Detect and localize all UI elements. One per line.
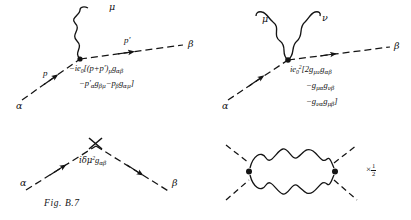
cross-x-icon xyxy=(89,138,102,149)
momentum-p-prime-label-tl: p′ xyxy=(124,36,130,45)
diagram-bottom-right xyxy=(226,145,357,200)
amplitude-formula-bl: iδμ2gαβ xyxy=(79,156,106,166)
alpha-label-tl: α xyxy=(16,101,22,111)
tr-l2-g2-sub: νβ xyxy=(328,85,335,91)
tr-l2-g1: −g xyxy=(306,80,316,90)
mu-label-tl: μ xyxy=(109,2,115,12)
photon-loop-lower-br xyxy=(250,175,334,194)
tl-l1-body: [(p+p′) xyxy=(84,63,109,73)
beta-leg-line-tr xyxy=(288,47,390,60)
tr-l1-g2-sub: αβ xyxy=(325,69,332,75)
tr-l3-g1: −g xyxy=(306,96,316,106)
beta-label-bl: β xyxy=(172,178,178,188)
photon-wave-mu-tr xyxy=(256,12,288,60)
beta-leg-arrow-tl xyxy=(118,52,132,54)
amplitude-formula-tr-line2: −gμαgνβ xyxy=(306,81,334,91)
beta-label-tl: β xyxy=(188,39,194,49)
bl-metric-sub: αβ xyxy=(99,160,106,166)
vertex-dot-tr xyxy=(285,57,291,63)
external-leg-lower-left-br xyxy=(226,180,249,200)
external-leg-upper-right-br xyxy=(334,145,357,163)
tl-l2-close: ] xyxy=(131,78,134,88)
external-leg-lower-right-br xyxy=(334,180,357,200)
tr-l1-body: [2g xyxy=(302,64,314,74)
diagram-canvas xyxy=(0,0,411,220)
mu-label-tr: μ xyxy=(262,14,268,24)
momentum-p-label-tl: p xyxy=(43,69,48,78)
photon-wave-nu-tr xyxy=(288,12,320,60)
tr-l3-close: ] xyxy=(334,96,337,106)
amplitude-formula-tr-line1: ie02[2gμνgαβ xyxy=(290,65,332,75)
feynman-diagram-figure: α p p′ β μ −ie0[(p+p′)μgαβ −p′αgβμ−pβgαμ… xyxy=(0,0,411,220)
vertex-dot-tl xyxy=(77,56,82,61)
amplitude-formula-tl-line2: −p′αgβμ−pβgαμ] xyxy=(79,79,134,89)
symmetry-factor-br: ×12 xyxy=(366,163,376,178)
amplitude-formula-tr-line3: −gναgμβ] xyxy=(306,97,338,107)
external-leg-upper-left-br xyxy=(226,145,249,163)
beta-label-tr: β xyxy=(394,41,400,51)
alpha-leg-arrow-tr xyxy=(249,77,262,86)
amplitude-formula-tl-line1: −ie0[(p+p′)μgαβ xyxy=(69,64,123,74)
figure-caption: Fig. B.7 xyxy=(44,199,80,209)
tl-l2-g2-sub: αμ xyxy=(123,83,131,89)
vertex-dot-right-br xyxy=(332,169,338,175)
photon-loop-upper-br xyxy=(250,149,334,168)
alpha-label-bl: α xyxy=(20,178,26,188)
tl-l2-term1: −p′ xyxy=(79,78,91,88)
vertex-dot-left-br xyxy=(246,169,252,175)
tl-l2-g1-sub: βμ xyxy=(99,83,106,89)
one-half-fraction: 12 xyxy=(371,163,376,178)
tl-l2-term2: −p xyxy=(106,78,116,88)
alpha-leg-arrow-bl xyxy=(50,166,64,175)
nu-label-tr: ν xyxy=(322,13,328,23)
fraction-denominator: 2 xyxy=(371,171,376,178)
tl-l1-prefix: −ie xyxy=(69,63,81,73)
bl-prefix: iδμ xyxy=(79,155,92,165)
photon-wave-tl xyxy=(74,7,88,59)
alpha-label-tr: α xyxy=(222,101,228,111)
tl-l1-metric-sub: αβ xyxy=(116,68,123,74)
beta-leg-arrow-bl xyxy=(127,165,141,174)
